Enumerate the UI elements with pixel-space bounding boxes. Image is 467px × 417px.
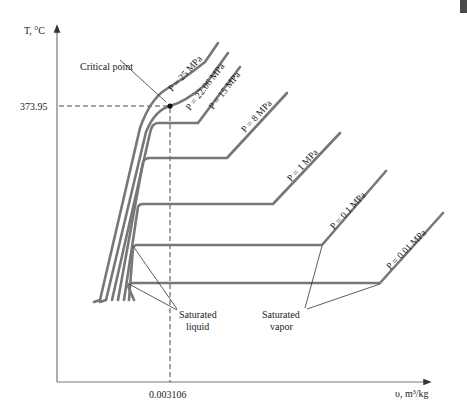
x-tick-critical-volume: 0.003106 bbox=[149, 389, 187, 400]
sat-liquid-label-2: liquid bbox=[186, 321, 209, 332]
isobar-label-1mpa: P = 1 MPa bbox=[285, 147, 320, 184]
isobar-25mpa bbox=[100, 43, 218, 300]
y-axis-label: T, °C bbox=[24, 25, 45, 36]
isobar-0-1mpa bbox=[129, 171, 386, 300]
isobar-label-0-1mpa: P = 0.1 MPa bbox=[328, 189, 368, 231]
isobar-8mpa bbox=[118, 93, 287, 300]
tv-diagram: T, °C υ, m³/kg 373.95 0.003106 Critical … bbox=[0, 0, 467, 417]
sat-liquid-label-1: Saturated bbox=[179, 309, 217, 320]
y-tick-critical-temp: 373.95 bbox=[20, 101, 48, 112]
isobar-label-0-01mpa: P = 0.01 MPa bbox=[384, 227, 428, 271]
liquid-line-extensions bbox=[94, 300, 106, 302]
sat-vapor-leader-1 bbox=[305, 246, 322, 308]
sat-vapor-label-1: Saturated bbox=[262, 309, 300, 320]
critical-point-marker bbox=[167, 103, 172, 108]
x-axis-label: υ, m³/kg bbox=[395, 388, 429, 399]
sat-vapor-leader-2 bbox=[307, 284, 380, 309]
isobar-label-8mpa: P = 8 MPa bbox=[239, 98, 274, 135]
critical-point-label: Critical point bbox=[80, 61, 133, 72]
sat-vapor-label-2: vapor bbox=[270, 321, 293, 332]
